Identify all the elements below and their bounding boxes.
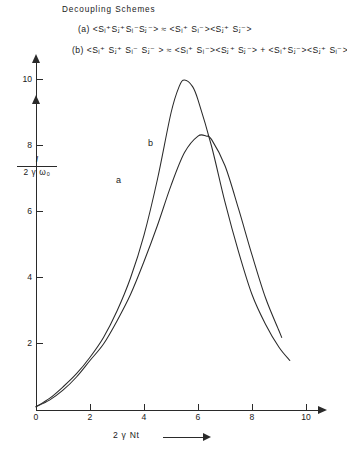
curve-label-b: b <box>148 138 153 148</box>
curve-plot <box>0 0 347 452</box>
curve-a-path <box>36 80 290 407</box>
figure-page: Decoupling Schemes (a) <Sᵢ⁺Sⱼ⁺Sᵢ⁻Sⱼ⁻> ≈ … <box>0 0 347 452</box>
curve-label-a: a <box>116 175 121 185</box>
plot-area: 10 8 6 4 2 0 2 4 6 8 10 I 2 γ ω₀ 2 γ Nt <box>0 0 347 452</box>
curve-b-path <box>36 135 282 407</box>
